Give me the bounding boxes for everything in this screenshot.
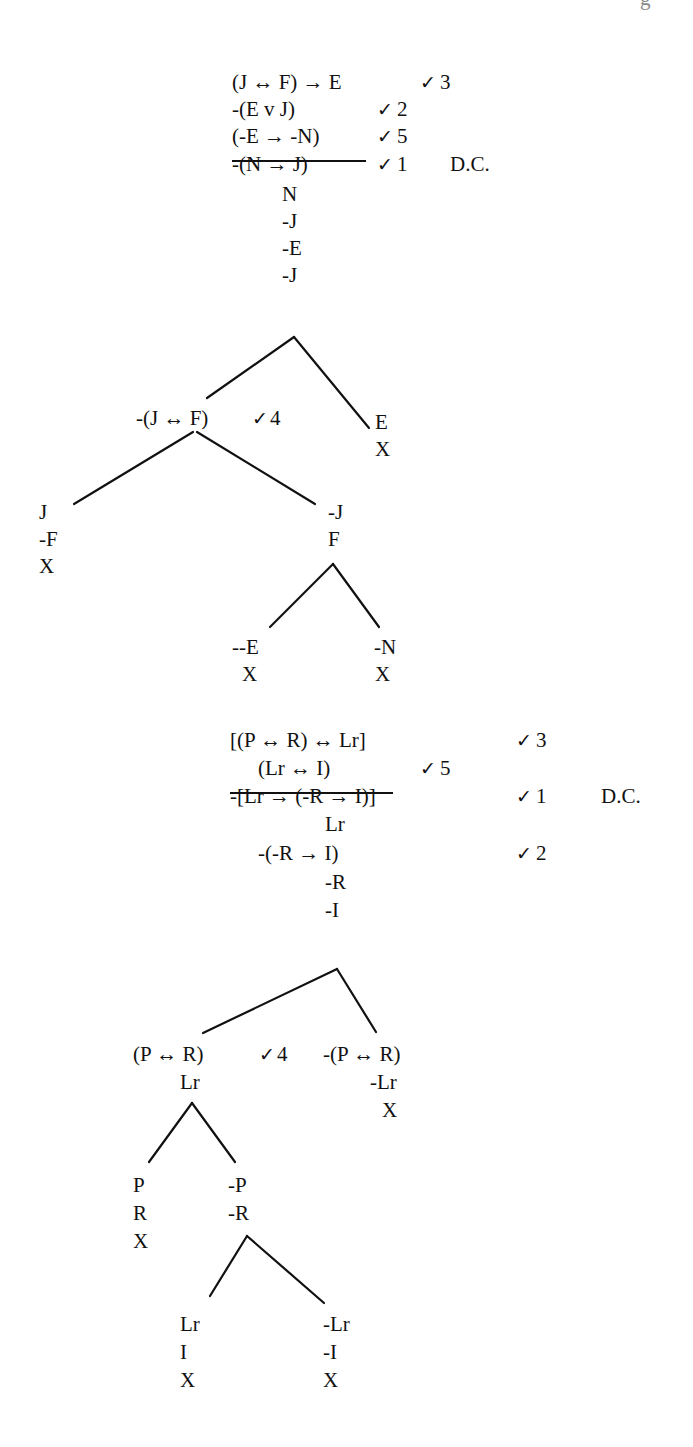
tree-branch-lines [0,0,693,1447]
branch-line [247,1236,324,1303]
branch-line [270,564,333,627]
branch-line [207,337,294,398]
branch-line [203,969,337,1033]
branch-line [210,1236,247,1296]
branch-line [337,969,376,1032]
branch-line [197,432,315,504]
branch-line [333,564,379,627]
branch-line [149,1103,192,1162]
branch-line [192,1103,235,1162]
branch-line [294,337,369,428]
branch-line [74,432,193,504]
